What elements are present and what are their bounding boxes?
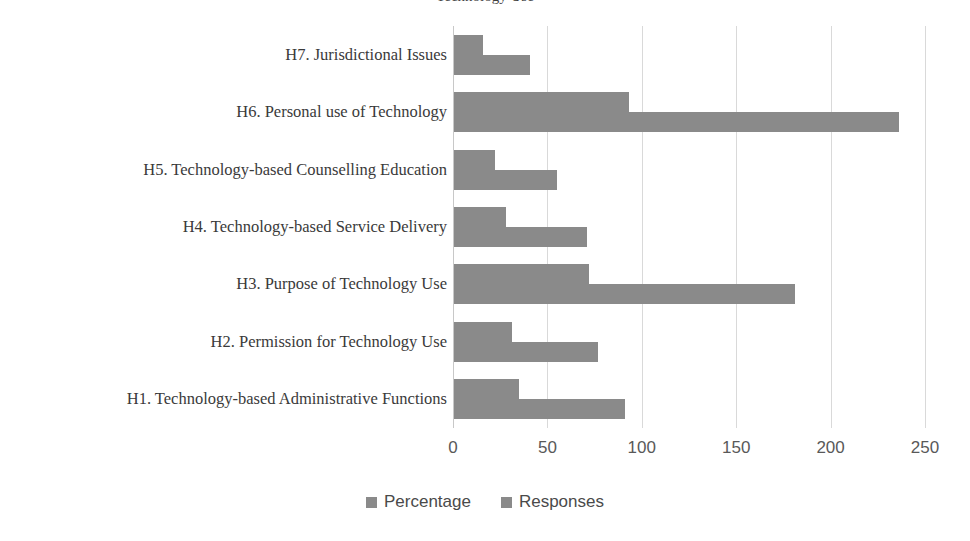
bar-responses-2 xyxy=(454,342,598,362)
bar-group xyxy=(453,92,925,132)
bar-responses-1 xyxy=(454,399,625,419)
bar-group xyxy=(453,150,925,190)
bar-group xyxy=(453,379,925,419)
plot-area xyxy=(453,26,925,428)
bar-responses-4 xyxy=(454,227,587,247)
x-tick-0: 0 xyxy=(448,437,457,459)
bar-percentage-5 xyxy=(454,150,495,170)
bar-percentage-2 xyxy=(454,322,512,342)
legend-item-percentage[interactable]: Percentage xyxy=(366,492,471,512)
bar-responses-5 xyxy=(454,170,557,190)
x-tick-50: 50 xyxy=(538,437,557,459)
bar-percentage-4 xyxy=(454,207,506,227)
gridline-250 xyxy=(925,26,926,428)
legend-label-responses: Responses xyxy=(519,492,604,512)
bar-group xyxy=(453,264,925,304)
category-label-h6: H6. Personal use of Technology xyxy=(0,102,447,122)
bar-percentage-6 xyxy=(454,92,629,112)
legend-item-responses[interactable]: Responses xyxy=(501,492,604,512)
category-label-h3: H3. Purpose of Technology Use xyxy=(0,274,447,294)
bar-percentage-7 xyxy=(454,35,483,55)
x-tick-250: 250 xyxy=(911,437,939,459)
bar-responses-6 xyxy=(454,112,899,132)
chart-page: Technology Use H1. Technology-based Admi… xyxy=(0,0,970,541)
bar-responses-3 xyxy=(454,284,795,304)
category-label-h4: H4. Technology-based Service Delivery xyxy=(0,217,447,237)
bar-responses-7 xyxy=(454,55,530,75)
bar-percentage-1 xyxy=(454,379,519,399)
category-label-h5: H5. Technology-based Counselling Educati… xyxy=(0,160,447,180)
cropped-title-text: Technology Use xyxy=(436,0,534,1)
x-tick-200: 200 xyxy=(816,437,844,459)
x-tick-150: 150 xyxy=(722,437,750,459)
chart-legend: PercentageResponses xyxy=(0,492,970,512)
bar-group xyxy=(453,35,925,75)
category-label-h7: H7. Jurisdictional Issues xyxy=(0,45,447,65)
x-tick-100: 100 xyxy=(628,437,656,459)
bar-percentage-3 xyxy=(454,264,589,284)
legend-label-percentage: Percentage xyxy=(384,492,471,512)
x-axis-tick-labels: 050100150200250 xyxy=(453,437,925,463)
cropped-title: Technology Use xyxy=(0,0,970,10)
category-label-h1: H1. Technology-based Administrative Func… xyxy=(0,389,447,409)
legend-swatch-responses xyxy=(501,497,512,508)
legend-swatch-percentage xyxy=(366,497,377,508)
bar-group xyxy=(453,322,925,362)
category-label-h2: H2. Permission for Technology Use xyxy=(0,332,447,352)
category-axis: H1. Technology-based Administrative Func… xyxy=(0,26,447,428)
bar-group xyxy=(453,207,925,247)
